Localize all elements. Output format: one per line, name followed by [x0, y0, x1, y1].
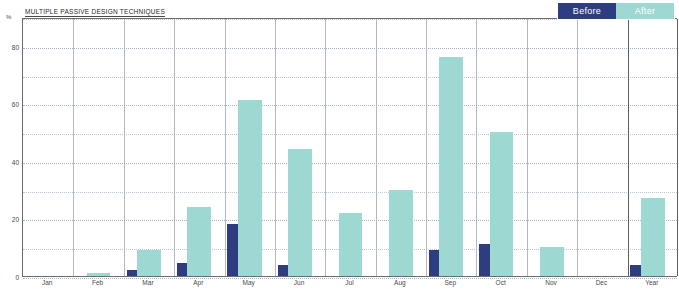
- bar-group: [577, 19, 627, 276]
- legend-label-before: Before: [573, 6, 601, 16]
- y-axis-unit-label: %: [6, 14, 11, 20]
- x-tick-label: Jul: [345, 279, 353, 286]
- bar-group: [628, 19, 678, 276]
- x-tick-label: May: [243, 279, 255, 286]
- x-tick-label: Jun: [294, 279, 304, 286]
- legend-item-after[interactable]: After: [616, 3, 674, 19]
- bar-group: [225, 19, 275, 276]
- x-tick-label: Sep: [444, 279, 456, 286]
- legend-item-before[interactable]: Before: [558, 3, 616, 19]
- bar-after[interactable]: [389, 190, 413, 276]
- y-tick-label: 20: [0, 216, 19, 223]
- bar-group: [426, 19, 476, 276]
- bar-group: [376, 19, 426, 276]
- x-tick-label: Aug: [394, 279, 406, 286]
- chart-title: MULTIPLE PASSIVE DESIGN TECHNIQUES: [25, 8, 165, 17]
- bar-after[interactable]: [288, 149, 312, 276]
- bar-chart: Before After MULTIPLE PASSIVE DESIGN TEC…: [0, 0, 679, 295]
- bar-after[interactable]: [87, 273, 111, 276]
- bar-after[interactable]: [187, 207, 211, 276]
- bar-group: [527, 19, 577, 276]
- x-tick-label: Apr: [193, 279, 203, 286]
- bar-group: [124, 19, 174, 276]
- x-tick-label: Jan: [42, 279, 52, 286]
- y-tick-label: 0: [0, 274, 19, 281]
- bar-group: [275, 19, 325, 276]
- chart-legend: Before After: [557, 2, 675, 20]
- bar-series-layer: [23, 19, 677, 276]
- bar-after[interactable]: [540, 247, 564, 276]
- bar-group: [23, 19, 73, 276]
- y-tick-label: 80: [0, 43, 19, 50]
- bar-after[interactable]: [339, 213, 363, 276]
- bar-group: [325, 19, 375, 276]
- bar-after[interactable]: [238, 100, 262, 276]
- plot-area: [22, 18, 677, 277]
- x-axis-tick-labels: JanFebMarAprMayJunJulAugSepOctNovDecYear: [22, 279, 677, 293]
- bar-after[interactable]: [137, 250, 161, 276]
- bar-after[interactable]: [439, 57, 463, 276]
- x-tick-label: Oct: [496, 279, 506, 286]
- x-tick-label: Year: [645, 279, 658, 286]
- x-tick-label: Dec: [596, 279, 608, 286]
- bar-group: [476, 19, 526, 276]
- y-tick-label: 40: [0, 158, 19, 165]
- y-tick-label: 60: [0, 101, 19, 108]
- x-tick-label: Nov: [545, 279, 557, 286]
- bar-group: [174, 19, 224, 276]
- bar-after[interactable]: [490, 132, 514, 276]
- legend-label-after: After: [635, 6, 656, 16]
- bar-after[interactable]: [641, 198, 665, 276]
- x-tick-label: Mar: [142, 279, 153, 286]
- x-tick-label: Feb: [92, 279, 103, 286]
- bar-group: [73, 19, 123, 276]
